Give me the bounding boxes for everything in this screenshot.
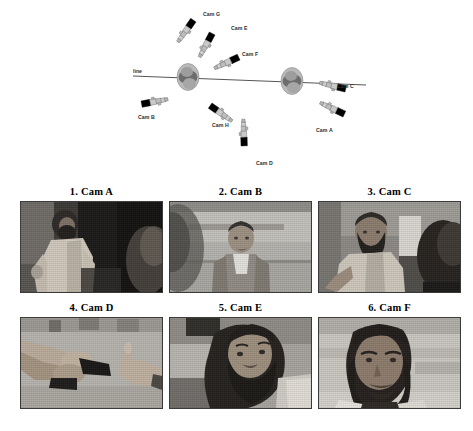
- photo-row-2: 4. Cam D: [0, 301, 473, 413]
- photo-image-6: [318, 317, 461, 409]
- photo-scene-3: [319, 202, 460, 292]
- camera-icon-e: [196, 31, 217, 59]
- photo-caption-4: 4. Cam D: [19, 301, 164, 314]
- photo-image-5: [169, 317, 312, 409]
- camera-label-d: Cam D: [256, 160, 273, 166]
- photo-image-4: [20, 317, 163, 409]
- camera-label-b: Cam B: [138, 114, 155, 120]
- camera-label-a: Cam A: [316, 127, 333, 133]
- photo-caption-1: 1. Cam A: [19, 185, 164, 198]
- photo-scene-2: [170, 202, 311, 292]
- figure-root: line Cam G Cam E Cam F Cam C Cam A Cam B…: [0, 0, 473, 431]
- photo-scene-1: [21, 202, 162, 292]
- photo-caption-3: 3. Cam C: [317, 185, 462, 198]
- photo-image-1: [20, 201, 163, 293]
- camera-layout-diagram: line Cam G Cam E Cam F Cam C Cam A Cam B…: [0, 0, 473, 183]
- photo-cell-6: 6. Cam F: [317, 301, 462, 413]
- photo-caption-6: 6. Cam F: [317, 301, 462, 314]
- photo-cell-2: 2. Cam B: [168, 185, 313, 297]
- camera-label-f: Cam F: [242, 51, 258, 57]
- photo-grid: 1. Cam A: [0, 185, 473, 431]
- photo-scene-4: [21, 318, 162, 408]
- photo-caption-2: 2. Cam B: [168, 185, 313, 198]
- camera-icon-b: [141, 94, 169, 108]
- camera-icon-d: [239, 119, 249, 146]
- photo-cell-1: 1. Cam A: [19, 185, 164, 297]
- reference-line-label: line: [133, 68, 142, 74]
- photo-cell-3: 3. Cam C: [317, 185, 462, 297]
- photo-scene-6: [319, 318, 460, 408]
- photo-image-3: [318, 201, 461, 293]
- camera-icon-g: [174, 18, 197, 45]
- photo-cell-5: 5. Cam E: [168, 301, 313, 413]
- camera-icon-f: [213, 53, 241, 72]
- photo-cell-4: 4. Cam D: [19, 301, 164, 413]
- subject-right: [281, 68, 303, 95]
- camera-icon-a: [318, 99, 346, 118]
- camera-label-c: Cam C: [337, 83, 354, 89]
- photo-caption-5: 5. Cam E: [168, 301, 313, 314]
- camera-label-e: Cam E: [231, 25, 248, 31]
- camera-label-h: Cam H: [212, 122, 229, 128]
- subject-left: [177, 64, 199, 91]
- camera-label-g: Cam G: [203, 11, 220, 17]
- photo-image-2: [169, 201, 312, 293]
- photo-row-1: 1. Cam A: [0, 185, 473, 297]
- photo-scene-5: [170, 318, 311, 408]
